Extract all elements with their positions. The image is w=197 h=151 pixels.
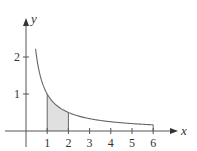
x-tick-label: 6 (150, 136, 156, 150)
y-axis-label: y (29, 11, 37, 26)
x-tick-label: 3 (87, 136, 93, 150)
x-tick-label: 5 (129, 136, 135, 150)
x-axis-label: x (180, 123, 187, 138)
chart-plot: x y 123456 12 (0, 0, 197, 151)
x-axis-arrow-icon (170, 128, 178, 134)
y-tick-label: 1 (14, 87, 20, 101)
y-axis-arrow-icon (23, 18, 29, 26)
x-tick-label: 2 (65, 136, 71, 150)
x-tick-label: 1 (44, 136, 50, 150)
x-tick-label: 4 (108, 136, 114, 150)
y-ticks: 12 (14, 50, 29, 101)
y-tick-label: 2 (14, 50, 20, 64)
